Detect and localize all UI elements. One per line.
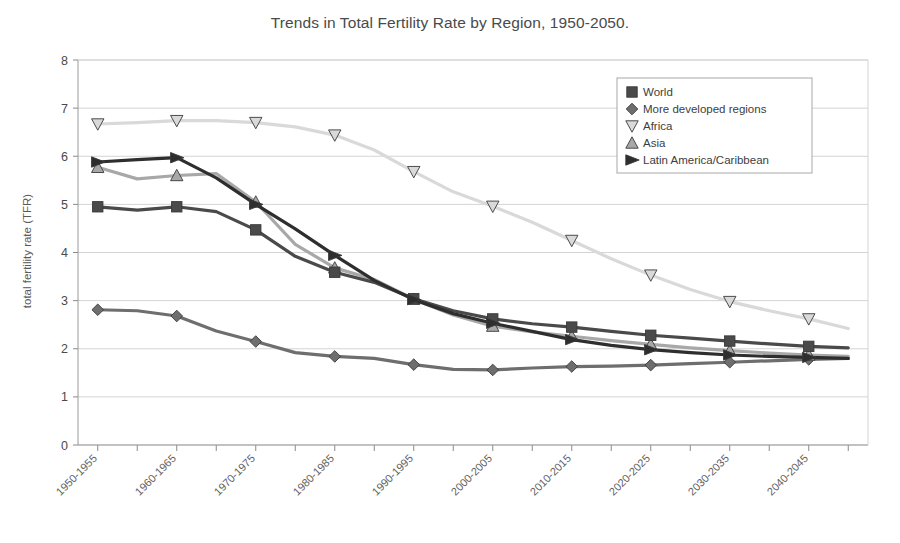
data-point-marker — [566, 361, 578, 373]
series-world — [93, 202, 849, 352]
x-tick-label: 1990-1995 — [369, 452, 415, 498]
data-point-marker — [725, 336, 735, 346]
x-axis-ticks — [98, 445, 849, 451]
plot-svg: 012345678 1950-19551960-19651970-1975198… — [0, 0, 900, 543]
data-point-marker — [627, 87, 637, 97]
y-axis-ticks: 012345678 — [61, 54, 78, 453]
data-point-marker — [329, 351, 341, 363]
y-axis-label: total fertility rate (TFR) — [21, 161, 33, 341]
y-tick-label: 5 — [61, 198, 68, 212]
legend-item-africa[interactable]: Africa — [626, 120, 673, 132]
x-tick-label: 1970-1975 — [211, 452, 257, 498]
legend-item-label: More developed regions — [643, 103, 767, 115]
y-tick-label: 2 — [61, 342, 68, 356]
data-point-marker — [93, 202, 103, 212]
x-axis-labels: 1950-19551960-19651970-19751980-19851990… — [53, 452, 810, 498]
y-tick-label: 8 — [61, 54, 68, 68]
legend-item-latin-america-caribbean[interactable]: Latin America/Caribbean — [626, 154, 769, 166]
chart-legend[interactable]: WorldMore developed regionsAfricaAsiaLat… — [617, 78, 812, 173]
x-tick-label: 1960-1965 — [132, 452, 178, 498]
series-latin-america-caribbean — [92, 152, 849, 362]
chart-title: Trends in Total Fertility Rate by Region… — [0, 14, 900, 32]
data-point-marker — [172, 202, 182, 212]
series-asia — [92, 161, 849, 360]
y-tick-label: 6 — [61, 150, 68, 164]
data-point-marker — [804, 341, 814, 351]
x-tick-label: 1950-1955 — [53, 452, 99, 498]
x-tick-label: 2000-2005 — [448, 452, 494, 498]
legend-item-asia[interactable]: Asia — [626, 137, 666, 149]
data-point-marker — [92, 304, 104, 316]
legend-item-world[interactable]: World — [627, 86, 673, 98]
data-point-marker — [646, 330, 656, 340]
series-line — [98, 207, 849, 348]
y-tick-label: 3 — [61, 294, 68, 308]
y-tick-label: 0 — [61, 439, 68, 453]
y-tick-label: 4 — [61, 246, 68, 260]
legend-item-label: Asia — [643, 137, 666, 149]
legend-item-more-developed-regions[interactable]: More developed regions — [626, 103, 766, 115]
x-tick-label: 1980-1985 — [290, 452, 336, 498]
chart-figure: Trends in Total Fertility Rate by Region… — [0, 0, 900, 543]
y-tick-label: 7 — [61, 102, 68, 116]
data-point-marker — [567, 322, 577, 332]
x-tick-label: 2030-2035 — [685, 452, 731, 498]
data-point-marker — [645, 359, 657, 371]
data-point-marker — [251, 225, 261, 235]
legend-item-label: Latin America/Caribbean — [643, 154, 769, 166]
x-tick-label: 2010-2015 — [527, 452, 573, 498]
data-point-marker — [330, 267, 340, 277]
data-point-marker — [250, 336, 262, 348]
data-point-marker — [408, 359, 420, 371]
x-tick-label: 2040-2045 — [764, 452, 810, 498]
y-tick-label: 1 — [61, 390, 68, 404]
data-point-marker — [487, 364, 499, 376]
data-point-marker — [171, 310, 183, 322]
x-tick-label: 2020-2025 — [606, 452, 652, 498]
legend-item-label: Africa — [643, 120, 673, 132]
legend-item-label: World — [643, 86, 673, 98]
